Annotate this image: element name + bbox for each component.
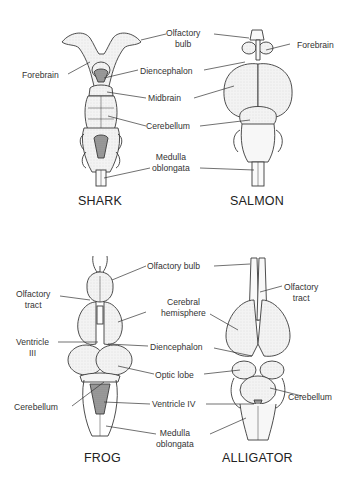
- medulla-oblongata-label-top: Medulla oblongata: [152, 152, 190, 173]
- medulla-oblongata-label-bottom: Medulla oblongata: [156, 428, 194, 449]
- diencephalon-label-top: Diencephalon: [140, 66, 193, 77]
- label-line-1: Medulla: [156, 428, 194, 439]
- brain-comparison-diagram: Olfactory bulb Forebrain Diencephalon Mi…: [0, 0, 362, 497]
- alligator-title: ALLIGATOR: [222, 451, 293, 465]
- frog-title: FROG: [84, 451, 121, 465]
- shark-title: SHARK: [78, 194, 122, 208]
- alligator-cerebellum-label: Cerebellum: [288, 392, 332, 403]
- midbrain-label: Midbrain: [148, 93, 181, 104]
- label-line-2: oblongata: [156, 439, 194, 450]
- shark-brain: [62, 33, 141, 186]
- label-line-1: Ventricle: [16, 337, 49, 348]
- frog-olfactory-tract-label: Olfactory tract: [16, 289, 50, 310]
- label-line-2: bulb: [166, 39, 200, 50]
- shark-olfactory-bulb-label: Olfactory bulb: [166, 28, 200, 49]
- olfactory-bulb-label-bottom: Olfactory bulb: [147, 261, 200, 272]
- label-line-1: Olfactory: [166, 28, 200, 39]
- optic-lobe-label: Optic lobe: [155, 370, 194, 381]
- ventricle-iv-label: Ventricle IV: [152, 399, 195, 410]
- label-line-2: III: [16, 348, 49, 359]
- label-line-2: oblongata: [152, 163, 190, 174]
- label-line-1: Olfactory: [284, 282, 318, 293]
- frog-cerebellum-label: Cerebellum: [14, 402, 58, 413]
- salmon-brain: [224, 30, 292, 186]
- frog-ventricle-iii-label: Ventricle III: [16, 337, 49, 358]
- label-line-2: tract: [284, 293, 318, 304]
- frog-brain: [68, 256, 132, 436]
- alligator-olfactory-tract-label: Olfactory tract: [284, 282, 318, 303]
- diencephalon-label-bottom: Diencephalon: [150, 342, 203, 353]
- cerebellum-label-top: Cerebellum: [146, 121, 190, 132]
- label-line-1: Olfactory: [16, 289, 50, 300]
- cerebral-hemisphere-label: Cerebral hemisphere: [161, 297, 206, 318]
- salmon-title: SALMON: [230, 194, 284, 208]
- shark-forebrain-label: Forebrain: [22, 70, 59, 81]
- alligator-brain: [226, 258, 290, 440]
- salmon-forebrain-label: Forebrain: [297, 40, 334, 51]
- label-line-2: hemisphere: [161, 308, 206, 319]
- label-line-1: Cerebral: [161, 297, 206, 308]
- label-line-1: Medulla: [152, 152, 190, 163]
- label-line-2: tract: [16, 300, 50, 311]
